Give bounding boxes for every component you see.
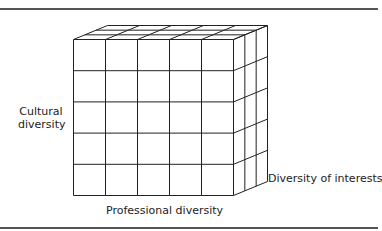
axis-label-line: diversity: [18, 118, 64, 131]
axis-label-line: Cultural: [18, 105, 64, 118]
bottom-rule: [0, 227, 378, 229]
axis-label-professional-diversity: Professional diversity: [106, 204, 223, 217]
axis-label-cultural-diversity: Cultural diversity: [18, 105, 64, 131]
axis-label-diversity-of-interests: Diversity of interests: [268, 172, 382, 185]
